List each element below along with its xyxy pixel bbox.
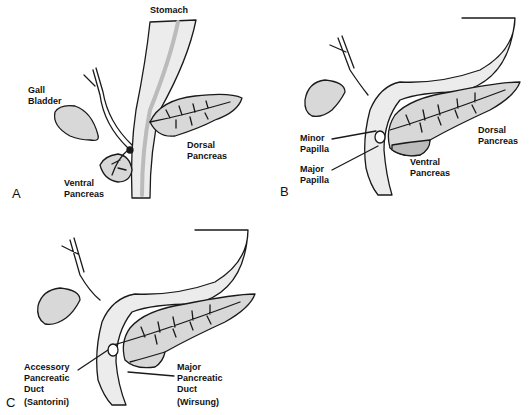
label-minor-papilla-line2: Papilla [300, 144, 329, 155]
gall-bladder-a [55, 106, 99, 141]
label-major-duct-line2: Pancreatic [177, 373, 223, 384]
label-ventral-pancreas-a-line1: Ventral [64, 178, 94, 189]
label-dorsal-pancreas-a-line1: Dorsal [187, 140, 215, 151]
label-ventral-pancreas-b-line1: Ventral [410, 157, 440, 168]
label-gall-bladder-line1: Gall [28, 85, 45, 96]
label-major-papilla-line2: Papilla [300, 175, 329, 186]
label-minor-papilla-line1: Minor [300, 133, 325, 144]
label-accessory-duct-line3: Duct [24, 384, 44, 395]
gall-bladder-c [38, 288, 80, 324]
ventral-pancreas-a [100, 154, 132, 182]
label-accessory-duct-line4: (Santorini) [24, 397, 69, 408]
label-ventral-pancreas-b-line2: Pancreas [410, 168, 450, 179]
panel-letter-a: A [12, 186, 21, 201]
panel-letter-c: C [6, 395, 15, 410]
label-dorsal-pancreas-b-line1: Dorsal [478, 125, 506, 136]
embryology-diagram [0, 0, 532, 415]
label-stomach: Stomach [150, 5, 188, 16]
label-accessory-duct-line1: Accessory [24, 362, 70, 373]
panel-letter-b: B [280, 184, 289, 199]
label-accessory-duct-line2: Pancreatic [24, 373, 70, 384]
label-ventral-pancreas-a-line2: Pancreas [64, 189, 104, 200]
label-major-duct-line4: (Wirsung) [177, 397, 219, 408]
panel-a-drawing [55, 20, 242, 198]
major-duct-pointer [128, 372, 174, 376]
label-major-duct-line1: Major [177, 362, 201, 373]
gall-bladder-b [305, 80, 345, 116]
label-major-papilla-line1: Major [300, 164, 324, 175]
label-major-duct-line3: Duct [177, 384, 197, 395]
label-dorsal-pancreas-a-line2: Pancreas [187, 151, 227, 162]
label-dorsal-pancreas-b-line2: Pancreas [478, 136, 518, 147]
label-gall-bladder-line2: Bladder [28, 96, 62, 107]
